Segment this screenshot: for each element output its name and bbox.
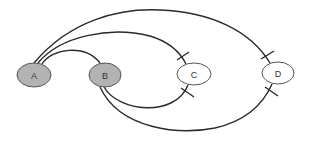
node-a[interactable]: A (17, 63, 51, 87)
edge-a-b (42, 50, 100, 64)
node-c[interactable]: C (177, 63, 211, 85)
node-d-label: D (275, 69, 282, 79)
node-a-label: A (31, 71, 37, 81)
edge-b-c (104, 85, 188, 108)
edge-b-c-bar-marker (181, 88, 194, 97)
node-b-label: B (102, 71, 108, 81)
node-c-label: C (191, 70, 198, 80)
node-b[interactable]: B (89, 63, 121, 87)
graph-diagram: A B C D (0, 0, 309, 141)
node-d[interactable]: D (262, 62, 294, 84)
edge-a-c (38, 32, 186, 64)
